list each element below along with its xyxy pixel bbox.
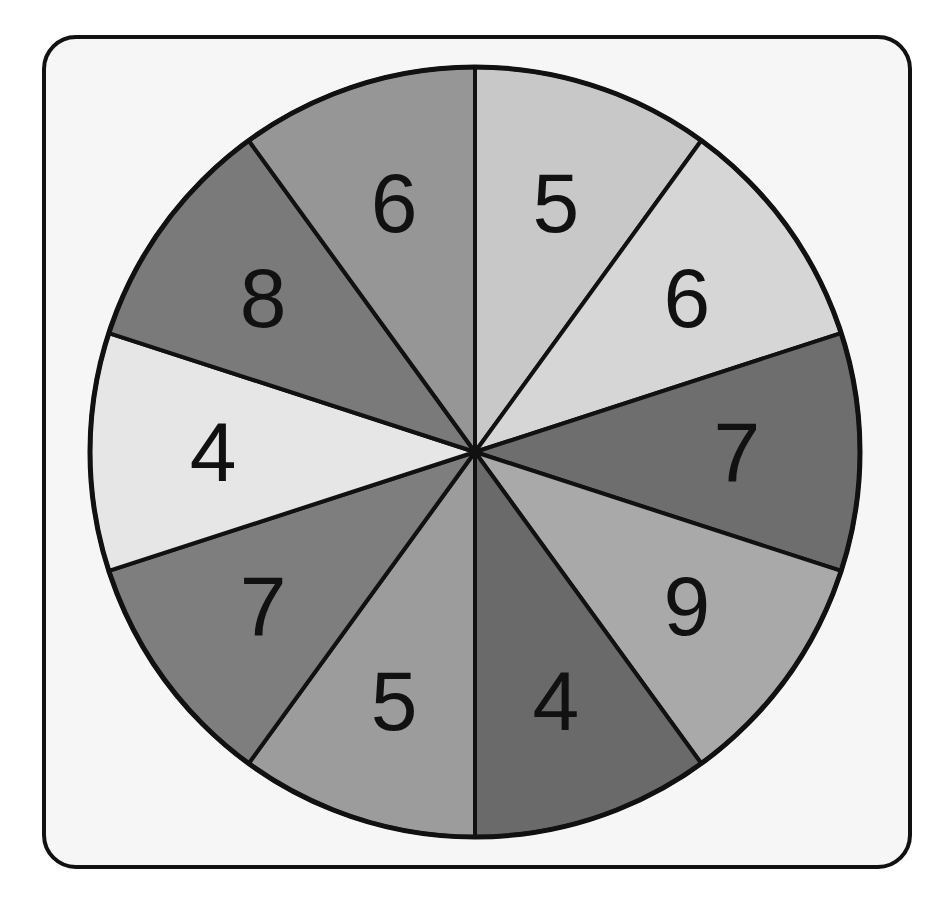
sector-number-label: 6: [371, 156, 418, 250]
sector-number-label: 7: [713, 405, 760, 499]
sector-number-label: 4: [190, 405, 237, 499]
sector-number-label: 6: [663, 251, 710, 345]
spinner-wheel: 5679457486: [0, 0, 947, 902]
sector-number-label: 4: [533, 654, 580, 748]
sector-number-label: 5: [533, 156, 580, 250]
sector-number-label: 5: [371, 654, 418, 748]
spinner-hub: [469, 446, 481, 458]
sector-number-label: 7: [240, 559, 287, 653]
sector-number-label: 8: [240, 251, 287, 345]
sector-number-label: 9: [663, 559, 710, 653]
